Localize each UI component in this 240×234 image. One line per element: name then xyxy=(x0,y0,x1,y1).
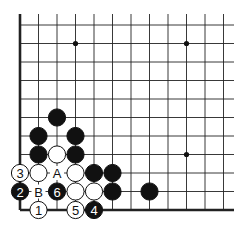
point-marker-label: A xyxy=(53,166,62,181)
black-stone-icon xyxy=(104,164,121,181)
black-stone xyxy=(141,183,158,200)
black-stone-icon xyxy=(30,127,47,144)
white-stone xyxy=(30,164,47,181)
black-stone xyxy=(30,127,47,144)
black-stone-icon xyxy=(85,164,102,181)
white-stone-icon xyxy=(48,146,65,163)
move-number-label: 1 xyxy=(35,203,42,218)
white-stone: 1 xyxy=(30,201,47,218)
white-stone xyxy=(67,164,84,181)
black-stone xyxy=(48,109,65,126)
black-stone xyxy=(67,127,84,144)
move-number-label: 3 xyxy=(16,166,23,181)
black-stone: 2 xyxy=(11,183,28,200)
black-stone: 6 xyxy=(48,183,65,200)
white-stone-icon xyxy=(30,164,47,181)
star-point-icon xyxy=(184,152,189,157)
black-stone: 4 xyxy=(85,201,102,218)
move-number-label: 2 xyxy=(16,185,23,200)
star-point-icon xyxy=(73,41,78,46)
white-stone: 3 xyxy=(11,164,28,181)
black-stone xyxy=(85,164,102,181)
white-stone xyxy=(48,146,65,163)
move-number-label: 5 xyxy=(72,203,79,218)
star-point-icon xyxy=(184,41,189,46)
white-stone-icon xyxy=(67,164,84,181)
white-stone-icon xyxy=(85,183,102,200)
move-number-label: 6 xyxy=(53,185,60,200)
black-stone xyxy=(67,146,84,163)
black-stone-icon xyxy=(67,127,84,144)
black-stone xyxy=(30,146,47,163)
black-stone xyxy=(104,183,121,200)
stones: 326154 xyxy=(11,109,158,219)
black-stone-icon xyxy=(67,146,84,163)
black-stone-icon xyxy=(141,183,158,200)
black-stone-icon xyxy=(48,109,65,126)
move-number-label: 4 xyxy=(90,203,97,218)
black-stone-icon xyxy=(104,183,121,200)
point-marker-label: B xyxy=(34,185,43,200)
black-stone-icon xyxy=(30,146,47,163)
white-stone xyxy=(67,183,84,200)
black-stone xyxy=(104,164,121,181)
white-stone xyxy=(85,183,102,200)
go-board-diagram: AB 326154 xyxy=(0,0,240,234)
white-stone-icon xyxy=(67,183,84,200)
white-stone: 5 xyxy=(67,201,84,218)
